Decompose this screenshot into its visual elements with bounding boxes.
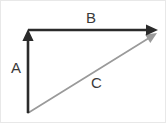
vector-diagram-canvas <box>1 1 166 123</box>
vector-a-label: A <box>11 60 21 75</box>
vector-c-label: C <box>91 75 102 90</box>
vector-b <box>28 24 158 35</box>
vector-a <box>22 29 33 113</box>
vector-c <box>28 33 157 113</box>
vector-b-label: B <box>86 10 96 25</box>
vector-diagram: A B C <box>0 0 166 123</box>
vector-c-shaft <box>28 37 150 113</box>
